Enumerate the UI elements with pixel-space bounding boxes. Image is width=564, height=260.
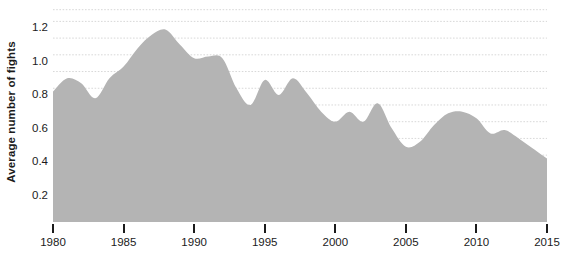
- x-tick-label-2005: 2005: [376, 235, 436, 249]
- y-axis-tick-labels: 0.20.40.60.81.01.2: [17, 8, 48, 222]
- x-tick-label-1995: 1995: [235, 235, 295, 249]
- x-tick-mark-1985: [123, 224, 125, 233]
- x-tick-label-1985: 1985: [94, 235, 154, 249]
- x-axis-tick-marks: [53, 224, 547, 233]
- y-tick-label-0.6: 0.6: [20, 122, 48, 134]
- x-tick-label-2010: 2010: [446, 235, 506, 249]
- x-tick-mark-1980: [52, 224, 54, 233]
- x-tick-mark-1990: [193, 224, 195, 233]
- plot-area: [53, 8, 547, 222]
- y-tick-label-1.2: 1.2: [20, 21, 48, 33]
- x-tick-mark-1995: [264, 224, 266, 233]
- x-tick-label-2015: 2015: [517, 235, 564, 249]
- y-tick-label-0.2: 0.2: [20, 189, 48, 201]
- x-axis-tick-labels: 19801985199019952000200520102015: [53, 235, 547, 253]
- x-tick-label-1990: 1990: [164, 235, 224, 249]
- y-tick-label-0.4: 0.4: [20, 155, 48, 167]
- x-tick-label-2000: 2000: [305, 235, 365, 249]
- area-chart-svg: [53, 8, 547, 222]
- x-tick-mark-2000: [334, 224, 336, 233]
- y-tick-label-1.0: 1.0: [20, 55, 48, 67]
- x-tick-mark-2010: [475, 224, 477, 233]
- x-tick-label-1980: 1980: [23, 235, 83, 249]
- y-tick-label-0.8: 0.8: [20, 88, 48, 100]
- x-tick-mark-2005: [405, 224, 407, 233]
- x-tick-mark-2015: [546, 224, 548, 233]
- area-series-fights: [53, 29, 547, 222]
